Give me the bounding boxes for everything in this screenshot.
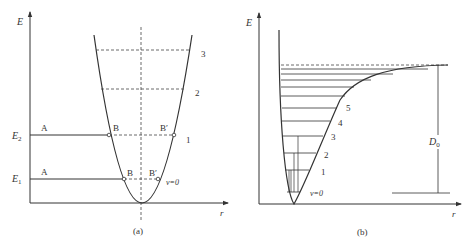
- panel-a-caption: (a): [133, 226, 143, 236]
- panel-b-level-0-label: ν=0: [310, 189, 323, 198]
- panel-b-caption: (b): [357, 227, 368, 237]
- potential-energy-diagrams: E r 3 2 E2 A B B′ 1 E1 A B B′ ν=0 (a): [0, 0, 472, 245]
- panel-b-levels: [281, 69, 428, 192]
- panel-a-E2-label: E2: [11, 130, 22, 143]
- panel-b-morse: E r 5 4 3 2: [245, 13, 461, 237]
- panel-a-B-upper: B: [113, 123, 119, 133]
- panel-a-Bp-lower: B′: [149, 168, 157, 178]
- panel-b-level-1-label: 1: [321, 167, 326, 177]
- panel-b-level-2-label: 2: [324, 150, 329, 160]
- panel-b-level-5-label: 5: [346, 103, 351, 113]
- panel-a-harmonic: E r 3 2 E2 A B B′ 1 E1 A B B′ ν=0 (a): [11, 12, 228, 236]
- panel-a-E1-label: E1: [11, 173, 22, 186]
- panel-a-point-B-upper: [107, 133, 111, 137]
- panel-a-A-lower: A: [41, 167, 48, 177]
- panel-b-level-4-label: 4: [338, 118, 343, 128]
- panel-a-point-B-lower: [122, 177, 126, 181]
- panel-b-y-label: E: [245, 17, 252, 28]
- panel-a-level-1-label: 1: [186, 135, 191, 145]
- panel-b-level-3-label: 3: [331, 132, 336, 142]
- panel-a-B-lower: B: [127, 168, 133, 178]
- panel-a-level-3-label: 3: [201, 49, 206, 59]
- panel-b-x-label: r: [452, 209, 456, 219]
- panel-a-point-Bp-upper: [172, 133, 176, 137]
- panel-b-morse-curve: [279, 30, 448, 204]
- panel-b-vertical-lines: [289, 136, 298, 192]
- panel-a-level-2-label: 2: [195, 88, 200, 98]
- panel-a-level-0-label: ν=0: [166, 178, 179, 187]
- panel-a-x-label: r: [220, 208, 224, 218]
- panel-a-y-label: E: [16, 16, 23, 27]
- panel-a-Bp-upper: B′: [160, 123, 168, 133]
- panel-a-A-upper: A: [41, 123, 48, 133]
